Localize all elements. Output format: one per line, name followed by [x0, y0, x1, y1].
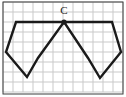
- vertex-labels: C: [60, 4, 67, 16]
- figure-canvas: C: [0, 0, 126, 97]
- vertex-c-dot: [61, 19, 66, 24]
- vertex-markers: [61, 19, 66, 24]
- vertex-c-label: C: [60, 4, 67, 16]
- geometry-diagram: C: [0, 0, 126, 97]
